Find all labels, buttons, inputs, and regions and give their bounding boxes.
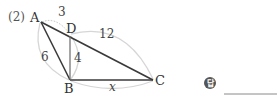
length-label-DC: 12 bbox=[99, 27, 114, 41]
length-label-AD: 3 bbox=[58, 5, 66, 19]
length-label-AB: 6 bbox=[41, 50, 49, 64]
triangle-diagram: (2) A D B C 3 12 6 4 x 답 bbox=[0, 0, 278, 105]
vertex-label-C: C bbox=[155, 73, 165, 88]
segment-AC bbox=[41, 22, 153, 80]
problem-number: (2) bbox=[8, 10, 25, 24]
length-label-BD: 4 bbox=[74, 51, 82, 65]
answer-badge-label: 답 bbox=[207, 78, 215, 88]
vertex-label-B: B bbox=[64, 81, 74, 96]
vertex-label-A: A bbox=[29, 10, 40, 25]
answer-badge: 답 bbox=[204, 77, 216, 89]
vertex-label-D: D bbox=[66, 21, 76, 36]
length-label-BC: x bbox=[109, 80, 116, 94]
